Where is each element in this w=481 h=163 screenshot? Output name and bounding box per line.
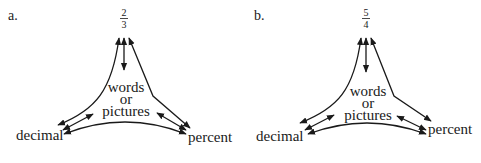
percent-node: percent [428, 121, 473, 137]
decimal-node: decimal [256, 128, 303, 144]
arrow-decimal-percent [308, 123, 426, 134]
center-node: words or pictures [102, 79, 150, 119]
fraction-node: 2 3 [120, 7, 128, 30]
fraction-denominator: 4 [364, 19, 369, 30]
panel-b-label: b. [254, 8, 265, 23]
arrow-decimal-center [63, 114, 93, 130]
center-node: words or pictures [344, 83, 392, 123]
decimal-node: decimal [16, 127, 63, 143]
arrow-center-percent [397, 116, 426, 130]
panel-a: a. 2 3 words or pictures decimal percent [8, 7, 233, 145]
fraction-node: 5 4 [362, 7, 370, 30]
panel-a-label: a. [8, 8, 18, 23]
fraction-denominator: 3 [122, 19, 127, 30]
arrow-decimal-percent [64, 122, 186, 134]
center-text-pictures: pictures [344, 107, 392, 123]
fraction-numerator: 5 [364, 7, 369, 18]
panel-b: b. 5 4 words or pictures decimal percent [254, 7, 473, 144]
representation-diagrams: a. 2 3 words or pictures decimal percent… [0, 0, 481, 163]
percent-node: percent [188, 129, 233, 145]
fraction-numerator: 2 [122, 7, 127, 18]
center-text-pictures: pictures [102, 103, 150, 119]
